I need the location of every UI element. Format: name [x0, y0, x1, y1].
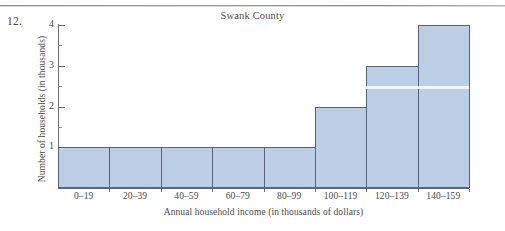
histogram-bars: [58, 24, 469, 189]
x-axis-tick-labels: 0–1920–3940–5960–7980–99100–119120–13914…: [58, 191, 469, 205]
y-axis-tick-labels: 1234: [38, 24, 54, 189]
histogram-bar: [161, 147, 213, 188]
x-axis-tick-label: 100–119: [315, 191, 366, 201]
x-axis-tick-label: 120–139: [366, 191, 417, 201]
histogram-bar: [315, 107, 367, 189]
y-axis-tick-label: 4: [38, 19, 54, 29]
x-axis-tick-label: 40–59: [161, 191, 212, 201]
histogram-bar: [212, 147, 264, 188]
histogram-bar: [109, 147, 161, 188]
histogram-bar: [264, 147, 316, 188]
chart-title: Swank County: [0, 10, 505, 21]
x-axis-title: Annual household income (in thousands of…: [58, 207, 469, 217]
x-axis-tick: [469, 189, 470, 192]
plot-area: 1234: [58, 24, 469, 189]
histogram-bar: [418, 25, 470, 188]
histogram-bar: [58, 147, 110, 188]
x-axis-tick-label: 140–159: [418, 191, 469, 201]
y-axis-tick-label: 2: [38, 101, 54, 111]
x-axis-tick-label: 0–19: [58, 191, 109, 201]
histogram-bar: [366, 66, 418, 188]
y-axis-tick-label: 3: [38, 60, 54, 70]
page-header-rule: [0, 5, 505, 6]
x-axis-tick-label: 20–39: [109, 191, 160, 201]
x-axis-tick-label: 60–79: [212, 191, 263, 201]
y-axis-tick-label: 1: [38, 141, 54, 151]
x-axis-tick-label: 80–99: [264, 191, 315, 201]
